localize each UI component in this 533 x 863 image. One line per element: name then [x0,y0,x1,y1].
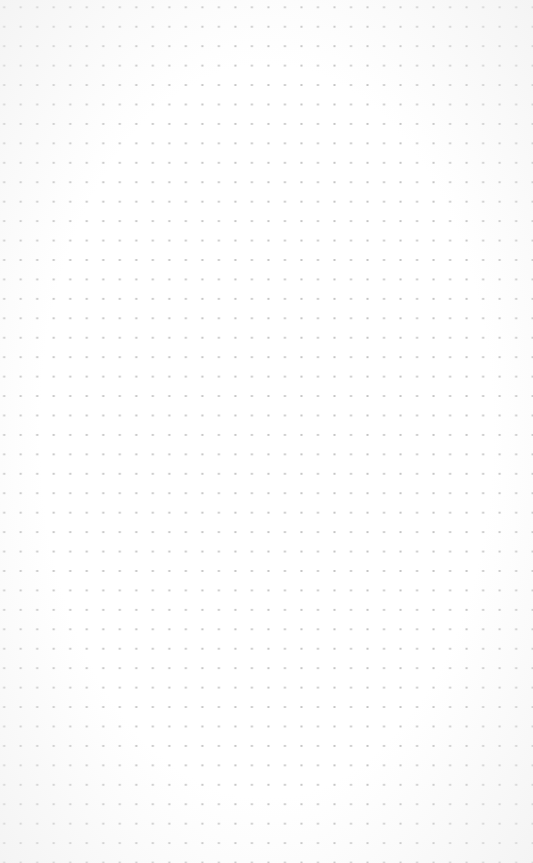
dot-grid-page [0,0,533,863]
dot-grid-pattern [0,0,533,863]
